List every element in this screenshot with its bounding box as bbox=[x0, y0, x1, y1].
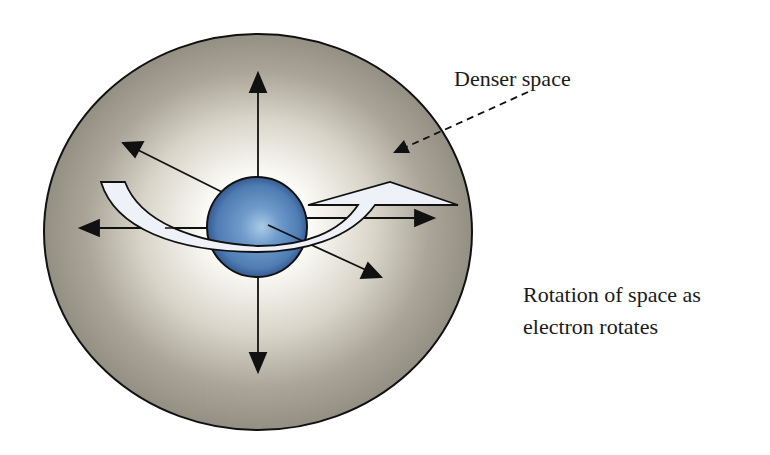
rotation-caption-line-1: Rotation of space as bbox=[523, 279, 701, 311]
denser-space-label: Denser space bbox=[454, 63, 571, 95]
electron-diagram bbox=[0, 0, 770, 455]
rotation-caption-line-2: electron rotates bbox=[523, 311, 701, 343]
rotation-caption: Rotation of space as electron rotates bbox=[523, 279, 701, 343]
electron-sphere bbox=[207, 177, 307, 277]
